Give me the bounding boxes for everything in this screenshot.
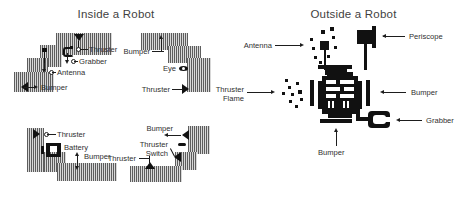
label-bumper-right: Bumper	[411, 88, 438, 97]
antenna-icon-tip	[42, 48, 47, 52]
periscope-mast	[364, 44, 367, 70]
antenna-spark	[310, 38, 313, 41]
thruster-flame-dot	[296, 82, 299, 85]
robot-vent-slot	[340, 80, 354, 84]
maze-wall-br-c	[130, 166, 182, 182]
grabber-icon-tip	[70, 46, 73, 49]
bumper-bl-arrow-up	[75, 152, 79, 156]
label-bumper-left: Bumper	[41, 83, 68, 92]
robot-vent-slot	[344, 87, 354, 91]
bumper-bottom-arrow	[334, 128, 338, 132]
robot-bumper-right	[366, 80, 370, 106]
battery-icon	[41, 143, 61, 157]
antenna-leader-arrow	[42, 69, 46, 73]
robot-vent-slot	[340, 94, 354, 98]
thruster-switch-icon-head	[174, 152, 181, 162]
thruster-flame-arrow	[271, 90, 275, 94]
thruster-flame-dot	[298, 90, 302, 94]
label-grabber: Grabber	[79, 57, 107, 66]
label-grabber-outside: Grabber	[426, 116, 454, 125]
antenna-spark	[312, 47, 315, 50]
thruster-top-leader	[80, 49, 88, 50]
thruster-icon-bl	[33, 129, 40, 139]
label-thruster-right: Thruster	[134, 85, 170, 94]
panel-inside-a-robot: Inside a Robot Thruster Grabber Antenna	[0, 0, 232, 206]
robot-vent-slot	[326, 94, 336, 98]
antenna-spark	[314, 56, 317, 59]
antenna-spark	[334, 46, 337, 49]
robot-torso-bottom	[328, 114, 352, 118]
thruster-bottom-leader	[139, 158, 150, 159]
bumper-bottom-leader	[336, 132, 337, 146]
robot-grill-tick	[347, 101, 349, 108]
thruster-flame-dot	[285, 79, 288, 82]
robot-bumper-bottom	[320, 119, 352, 123]
label-periscope: Periscope	[409, 32, 443, 41]
thruster-bl-leader	[47, 134, 56, 135]
antenna-leader	[275, 45, 301, 46]
grabber-leader-outside	[400, 120, 422, 121]
thruster-icon-top	[74, 34, 84, 41]
label-battery: Battery	[64, 143, 88, 152]
thruster-icon-bottom	[145, 162, 155, 169]
label-thruster-top: Thruster	[89, 45, 117, 54]
robot-bumper-left	[310, 80, 314, 106]
label-thruster-bottom: Thruster	[98, 154, 136, 163]
antenna-spark	[330, 27, 334, 31]
grabber-claw-gap	[382, 117, 391, 122]
periscope-leader-arrow	[382, 34, 386, 38]
periscope-head	[357, 30, 372, 44]
antenna-spark	[321, 30, 325, 34]
antenna-spark	[332, 36, 335, 39]
thruster-switch-icon-bar	[178, 143, 186, 146]
thruster-flame-dot	[282, 92, 285, 95]
robot-vent-slot	[326, 80, 336, 84]
bumper-br-arrow	[164, 133, 168, 137]
panel-outside-title: Outside a Robot	[232, 8, 475, 20]
eye-icon	[179, 66, 188, 71]
antenna-leader-h	[52, 72, 56, 73]
label-antenna-outside: Antenna	[232, 41, 272, 50]
label-thruster-switch-1: Thruster	[126, 140, 168, 149]
thruster-flame-dot	[289, 100, 292, 103]
label-bumper-bottom: Bumper	[318, 148, 345, 157]
antenna-spark	[327, 55, 330, 58]
label-bumper-br: Bumper	[128, 124, 173, 133]
periscope-head-edge	[372, 26, 376, 48]
panel-inside-title: Inside a Robot	[0, 8, 232, 20]
label-thruster-bl: Thruster	[57, 130, 85, 139]
grabber-leader-h	[74, 61, 78, 62]
periscope-leader	[383, 36, 405, 37]
robot-grill-tick	[328, 101, 330, 108]
bumper-icon-br	[182, 130, 189, 140]
bumper-bl-arrow-down	[75, 166, 79, 170]
label-thruster-flame-1: Thruster	[204, 85, 244, 94]
grabber-arm-horz	[356, 117, 368, 121]
bumper-tr-leader-v	[161, 38, 162, 51]
robot-grill-tick	[343, 101, 345, 108]
thruster-flame-dot	[300, 98, 303, 101]
bumper-br-leader	[167, 135, 181, 136]
antenna-spark	[319, 61, 322, 64]
bumper-tr-arrow	[159, 35, 163, 39]
thruster-flame-dot	[295, 105, 298, 108]
robot-vent-slot	[326, 87, 340, 91]
thruster-flame-leader	[247, 92, 272, 93]
panel-outside-a-robot: Outside a Robot Antenna Periscope	[232, 0, 475, 206]
grabber-arrow-outside	[396, 118, 400, 122]
bumper-right-leader	[384, 92, 406, 93]
thruster-right-leader	[172, 89, 183, 90]
bumper-right-arrow	[380, 90, 384, 94]
thruster-flame-dot	[291, 93, 294, 96]
label-antenna: Antenna	[57, 68, 85, 77]
bumper-tr-leader-h	[152, 51, 164, 52]
antenna-emitter	[320, 41, 329, 50]
robot-grill-tick	[332, 101, 334, 108]
maze-wall-bl-c	[57, 163, 117, 181]
maze-wall-br-a	[188, 126, 210, 154]
label-bumper-topright: Bumper	[115, 47, 150, 56]
bumper-left-arrow	[34, 85, 38, 89]
label-eye: Eye	[143, 64, 176, 73]
antenna-leader-arrow	[300, 43, 304, 47]
label-thruster-flame-2: Flame	[204, 94, 244, 103]
